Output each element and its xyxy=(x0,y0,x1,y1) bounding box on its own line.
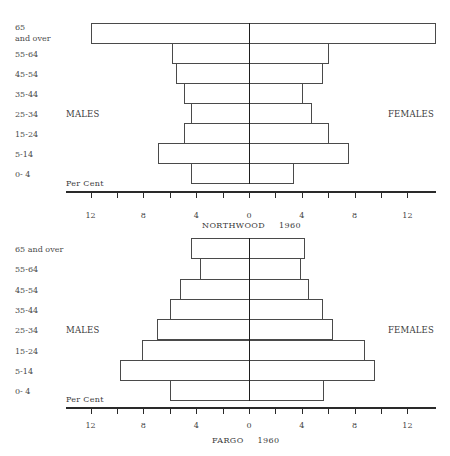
male-bar xyxy=(191,238,250,259)
female-bar xyxy=(249,63,323,84)
age-group-label: 25-34 xyxy=(15,109,38,120)
males-label: MALES xyxy=(66,325,100,335)
males-label: MALES xyxy=(66,109,100,119)
female-bar xyxy=(249,123,329,144)
x-tick-label: 8 xyxy=(141,211,146,220)
age-group-label: 65 and over xyxy=(15,244,63,255)
female-bar xyxy=(249,299,323,320)
x-axis-tick xyxy=(249,408,250,414)
age-group-label: 0- 4 xyxy=(15,386,30,397)
male-bar xyxy=(184,123,250,144)
age-group-label: 65 and over xyxy=(15,22,50,44)
x-axis-tick xyxy=(328,192,329,198)
age-group-label: 0- 4 xyxy=(15,169,30,180)
x-axis-tick xyxy=(355,408,356,414)
age-group-label: 15-24 xyxy=(15,129,38,140)
age-group-label: 45-54 xyxy=(15,285,38,296)
x-axis-tick xyxy=(407,408,408,414)
chart-title-place: FARGO xyxy=(212,436,244,445)
females-label: FEMALES xyxy=(388,109,434,119)
x-axis-tick xyxy=(223,192,224,198)
x-axis-tick xyxy=(223,408,224,414)
male-bar xyxy=(158,143,250,164)
male-bar xyxy=(157,319,250,340)
x-axis-tick xyxy=(355,192,356,198)
female-bar xyxy=(249,380,324,401)
x-axis-tick xyxy=(275,192,276,198)
x-axis-tick xyxy=(117,408,118,414)
age-group-label: 35-44 xyxy=(15,89,38,100)
age-group-label: 5-14 xyxy=(15,149,33,160)
age-group-label: 55-64 xyxy=(15,49,38,60)
x-axis-tick xyxy=(328,408,329,414)
age-group-label: 35-44 xyxy=(15,305,38,316)
x-axis-tick xyxy=(91,408,92,414)
age-group-label: 15-24 xyxy=(15,346,38,357)
male-bar xyxy=(180,279,250,300)
female-bar xyxy=(249,360,375,381)
chart-title-year: 1960 xyxy=(279,221,301,230)
male-bar xyxy=(91,23,250,44)
female-bar xyxy=(249,163,294,184)
female-bar xyxy=(249,103,312,124)
female-bar xyxy=(249,43,329,64)
female-bar xyxy=(249,258,301,279)
female-bar xyxy=(249,340,365,361)
age-group-label: 55-64 xyxy=(15,264,38,275)
x-tick-label: 8 xyxy=(352,211,357,220)
x-axis-tick xyxy=(302,408,303,414)
x-axis-tick xyxy=(91,192,92,198)
female-bar xyxy=(249,23,436,44)
x-axis-tick xyxy=(381,408,382,414)
x-tick-label: 8 xyxy=(352,421,357,430)
female-bar xyxy=(249,279,309,300)
females-label: FEMALES xyxy=(388,325,434,335)
x-axis-tick xyxy=(196,192,197,198)
x-tick-label: 8 xyxy=(141,421,146,430)
age-group-label: 5-14 xyxy=(15,366,33,377)
male-bar xyxy=(191,163,250,184)
x-axis-tick xyxy=(302,192,303,198)
zero-line xyxy=(249,238,251,401)
x-tick-label: 4 xyxy=(194,211,199,220)
x-tick-label: 4 xyxy=(194,421,199,430)
chart-title: FARGO1960 xyxy=(212,436,280,445)
x-axis-tick xyxy=(143,408,144,414)
female-bar xyxy=(249,143,349,164)
x-tick-label: 12 xyxy=(402,421,412,430)
per-cent-label: Per Cent xyxy=(66,179,104,188)
per-cent-label: Per Cent xyxy=(66,395,104,404)
chart-title-year: 1960 xyxy=(258,436,280,445)
x-axis-tick xyxy=(381,192,382,198)
age-group-label: 25-34 xyxy=(15,325,38,336)
male-bar xyxy=(120,360,250,381)
zero-line xyxy=(249,23,251,184)
male-bar xyxy=(170,380,250,401)
x-axis-tick xyxy=(143,192,144,198)
female-bar xyxy=(249,319,333,340)
age-group-label: 45-54 xyxy=(15,69,38,80)
male-bar xyxy=(191,103,250,124)
x-tick-label: 12 xyxy=(402,211,412,220)
x-axis-tick xyxy=(196,408,197,414)
x-axis-tick xyxy=(170,192,171,198)
male-bar xyxy=(200,258,250,279)
male-bar xyxy=(184,83,250,104)
x-axis-tick xyxy=(407,192,408,198)
male-bar xyxy=(172,43,250,64)
x-axis-tick xyxy=(117,192,118,198)
x-axis-tick xyxy=(170,408,171,414)
x-tick-label: 4 xyxy=(299,421,304,430)
x-tick-label: 12 xyxy=(86,421,96,430)
x-tick-label: 0 xyxy=(246,211,251,220)
x-tick-label: 12 xyxy=(86,211,96,220)
female-bar xyxy=(249,83,303,104)
chart-title: NORTHWOOD1960 xyxy=(202,221,301,230)
x-tick-label: 4 xyxy=(299,211,304,220)
x-axis-tick xyxy=(275,408,276,414)
female-bar xyxy=(249,238,305,259)
male-bar xyxy=(176,63,250,84)
x-axis-tick xyxy=(249,192,250,198)
x-tick-label: 0 xyxy=(246,421,251,430)
male-bar xyxy=(170,299,250,320)
